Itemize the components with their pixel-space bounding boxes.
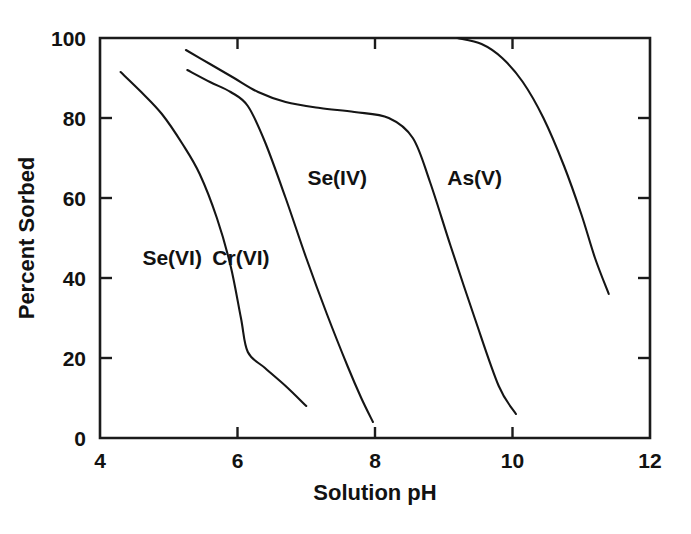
series-label-sevi: Se(VI) [142, 246, 202, 269]
x-axis-ticks [238, 38, 513, 438]
x-tick-label: 8 [369, 449, 381, 472]
series-label-crvi: Cr(VI) [212, 246, 269, 269]
x-tick-label: 12 [638, 449, 661, 472]
chart-svg: 4681012 020406080100 Se(VI)Cr(VI)Se(IV)A… [0, 0, 691, 534]
x-tick-label: 4 [94, 449, 106, 472]
chart-figure: 4681012 020406080100 Se(VI)Cr(VI)Se(IV)A… [0, 0, 691, 534]
y-tick-label: 20 [63, 347, 86, 370]
y-axis-title: Percent Sorbed [14, 157, 39, 320]
data-curves [121, 38, 609, 422]
curve-seiv [186, 50, 516, 414]
x-tick-label: 10 [501, 449, 524, 472]
y-tick-label: 40 [63, 267, 86, 290]
series-label-seiv: Se(IV) [307, 166, 367, 189]
y-tick-label: 60 [63, 187, 86, 210]
y-tick-label: 0 [74, 427, 86, 450]
y-tick-label: 100 [51, 27, 86, 50]
plot-frame [100, 38, 650, 438]
y-axis-ticks [100, 118, 650, 358]
x-tick-label: 6 [232, 449, 244, 472]
x-axis-tick-labels: 4681012 [94, 449, 662, 472]
series-annotations: Se(VI)Cr(VI)Se(IV)As(V) [142, 166, 502, 269]
y-tick-label: 80 [63, 107, 86, 130]
series-label-asv: As(V) [447, 166, 502, 189]
y-axis-tick-labels: 020406080100 [51, 27, 86, 450]
x-axis-title: Solution pH [313, 480, 436, 505]
curve-sevi [121, 72, 307, 406]
